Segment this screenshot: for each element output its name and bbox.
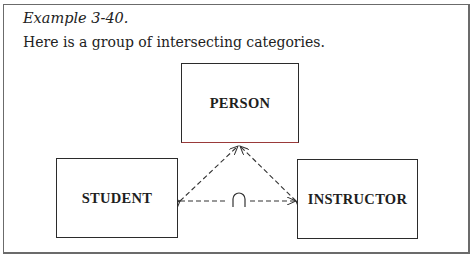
edge-instructor-person <box>240 146 296 201</box>
intersection-icon <box>233 193 245 207</box>
node-person-label: PERSON <box>210 95 271 112</box>
node-instructor-label: INSTRUCTOR <box>308 191 407 208</box>
edge-student-person <box>180 146 238 201</box>
node-student-label: STUDENT <box>82 190 153 207</box>
node-instructor: INSTRUCTOR <box>297 159 418 239</box>
node-person: PERSON <box>181 63 299 143</box>
node-student: STUDENT <box>56 158 178 238</box>
